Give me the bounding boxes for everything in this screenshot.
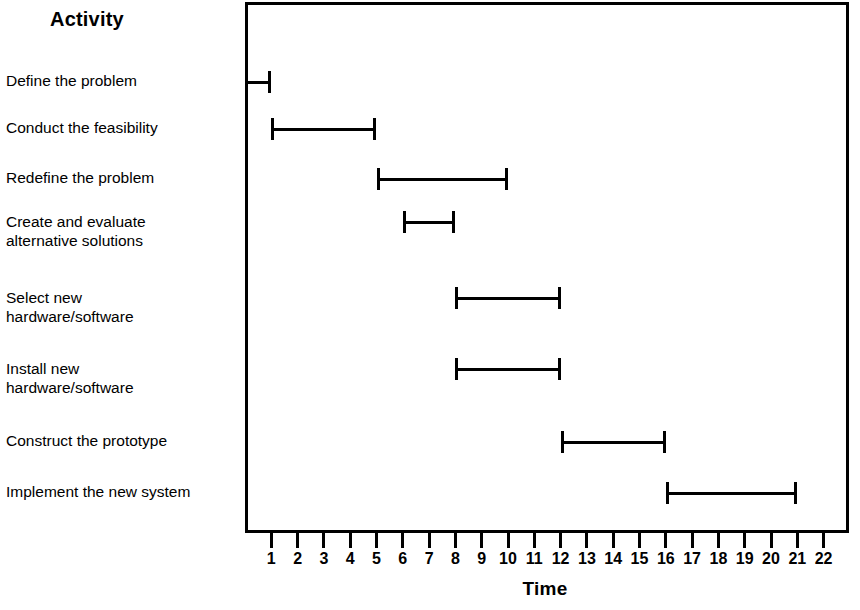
x-tick-mark (770, 533, 773, 548)
activity-label: Define the problem (6, 71, 242, 90)
x-tick-mark (454, 533, 457, 548)
x-tick-mark (822, 533, 825, 548)
activity-label: Construct the prototype (6, 431, 242, 450)
x-tick-mark (585, 533, 588, 548)
x-tick-mark (533, 533, 536, 548)
plot-frame (245, 2, 849, 533)
x-tick-mark (480, 533, 483, 548)
x-axis: 12345678910111213141516171819202122 (245, 533, 849, 578)
activity-label: Install new hardware/software (6, 359, 242, 397)
x-tick-mark (612, 533, 615, 548)
x-axis-title: Time (495, 578, 595, 600)
x-tick-mark (322, 533, 325, 548)
x-tick-mark (717, 533, 720, 548)
x-tick-mark (375, 533, 378, 548)
activity-label: Conduct the feasibility (6, 118, 242, 137)
x-tick-mark (664, 533, 667, 548)
activity-label: Redefine the problem (6, 168, 242, 187)
x-tick-mark (401, 533, 404, 548)
x-tick-label: 22 (804, 549, 844, 569)
activity-label: Select new hardware/software (6, 288, 242, 326)
x-tick-mark (349, 533, 352, 548)
x-tick-mark (296, 533, 299, 548)
x-tick-mark (559, 533, 562, 548)
activity-label: Create and evaluate alternative solution… (6, 212, 242, 250)
x-tick-mark (796, 533, 799, 548)
x-tick-mark (270, 533, 273, 548)
x-tick-mark (743, 533, 746, 548)
gantt-chart: Activity Define the problemConduct the f… (0, 0, 860, 610)
x-tick-mark (638, 533, 641, 548)
x-tick-mark (691, 533, 694, 548)
activity-label-column: Define the problemConduct the feasibilit… (0, 0, 243, 533)
x-tick-mark (428, 533, 431, 548)
activity-label: Implement the new system (6, 482, 242, 501)
x-tick-mark (507, 533, 510, 548)
